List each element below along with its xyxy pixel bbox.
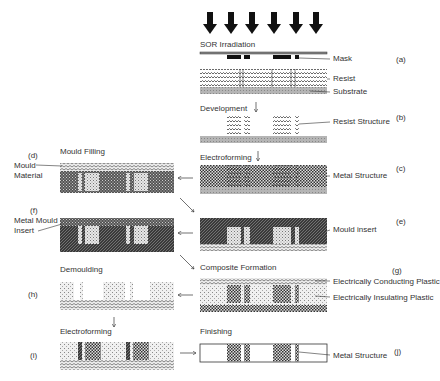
resist-label: Resist bbox=[333, 74, 355, 83]
substrate-label: Substrate bbox=[333, 87, 367, 96]
step-b-process: Development bbox=[200, 104, 247, 113]
step-j-tag: (j) bbox=[394, 347, 401, 356]
step-e-tag: (e) bbox=[396, 217, 406, 226]
metal-structure-label-j: Metal Structure bbox=[333, 351, 387, 360]
mould-insert-label: Mould insert bbox=[333, 225, 377, 234]
metal-mould-insert-label-1: Metal Mould bbox=[14, 216, 58, 225]
step-g-tag: (g) bbox=[392, 266, 402, 275]
insulating-plastic-label: Electrically Insulating Plastic bbox=[333, 293, 433, 302]
step-h-process: Demoulding bbox=[60, 265, 103, 274]
step-b-tag: (b) bbox=[396, 113, 406, 122]
step-f-tag: (f) bbox=[30, 206, 38, 215]
step-c-process: Electroforming bbox=[200, 153, 252, 162]
step-h-tag: (h) bbox=[28, 290, 38, 299]
step-i-tag: (i) bbox=[30, 351, 37, 360]
step-g-process: Composite Formation bbox=[200, 263, 276, 272]
mould-material-label-1: Mould bbox=[14, 161, 36, 170]
step-a-tag: (a) bbox=[396, 55, 406, 64]
metal-mould-insert-label-2: Insert bbox=[14, 226, 34, 235]
irradiation-arrows bbox=[203, 12, 323, 34]
step-d-process: Mould Filling bbox=[60, 147, 105, 156]
resist-structure-label: Resist Structure bbox=[333, 117, 390, 126]
conducting-plastic-label: Electrically Conducting Plastic bbox=[333, 277, 440, 286]
step-d-tag: (d) bbox=[28, 151, 38, 160]
step-c-tag: (c) bbox=[396, 164, 405, 173]
step-a-process: SOR Irradiation bbox=[200, 40, 255, 49]
step-j-process: Finishing bbox=[200, 327, 232, 336]
mask-label: Mask bbox=[333, 54, 352, 63]
mould-material-label-2: Material bbox=[14, 171, 42, 180]
metal-structure-label-c: Metal Structure bbox=[333, 171, 387, 180]
step-i-process: Electroforming bbox=[60, 327, 112, 336]
